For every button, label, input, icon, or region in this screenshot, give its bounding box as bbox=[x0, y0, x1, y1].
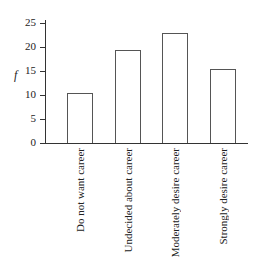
y-tick-label: 20 bbox=[16, 41, 36, 52]
category-label: Strongly desire career bbox=[217, 148, 229, 245]
y-tick bbox=[40, 23, 45, 24]
y-tick-label: 15 bbox=[16, 65, 36, 76]
y-tick-label: 0 bbox=[16, 137, 36, 148]
y-tick bbox=[40, 95, 45, 96]
bar bbox=[162, 33, 188, 143]
y-axis-line bbox=[45, 20, 46, 144]
category-label: Do not want career bbox=[74, 148, 86, 232]
bar bbox=[67, 93, 93, 143]
y-tick bbox=[40, 71, 45, 72]
y-tick-label: 25 bbox=[16, 17, 36, 28]
x-axis-line bbox=[45, 143, 248, 144]
y-tick bbox=[40, 143, 45, 144]
y-tick bbox=[40, 47, 45, 48]
bar bbox=[210, 69, 236, 143]
y-tick bbox=[40, 119, 45, 120]
category-label: Moderately desire career bbox=[169, 148, 181, 257]
bar-chart: f 0510152025 Do not want careerUndecided… bbox=[0, 0, 257, 262]
category-label: Undecided about career bbox=[122, 148, 134, 252]
y-tick-label: 5 bbox=[16, 113, 36, 124]
y-tick-label: 10 bbox=[16, 89, 36, 100]
bar bbox=[115, 50, 141, 143]
